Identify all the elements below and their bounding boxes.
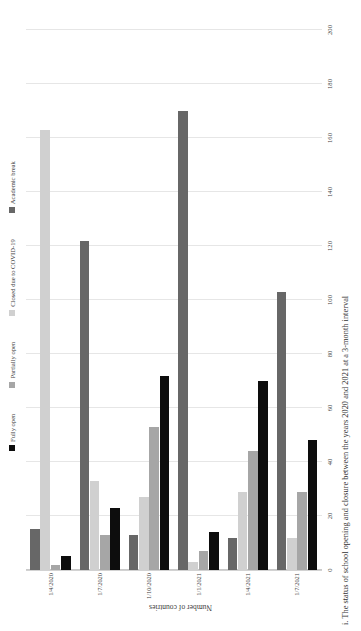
bar[interactable]: [199, 551, 209, 570]
value-axis-tick-label: 140: [326, 187, 333, 197]
legend-swatch-partially-open: [9, 382, 15, 388]
category-tick-label: 1/10/2020: [145, 573, 152, 599]
gridline: [26, 191, 322, 192]
legend-swatch-fully-open: [9, 445, 15, 451]
bar[interactable]: [287, 538, 297, 570]
bar[interactable]: [297, 492, 307, 570]
figure-caption: i. The status of school opening and clos…: [341, 5, 350, 625]
bar[interactable]: [178, 111, 188, 570]
legend-item[interactable]: Fully open: [9, 414, 16, 451]
legend-item-label: Partially open: [9, 342, 16, 379]
bar[interactable]: [110, 508, 120, 570]
legend-item[interactable]: Academic break: [9, 161, 16, 213]
gridline: [26, 245, 322, 246]
category-axis: 1/4/20201/7/20201/10/20201/1/20211/4/202…: [0, 571, 361, 631]
gridline: [26, 29, 322, 30]
value-axis-tick-label: 120: [326, 241, 333, 251]
bar[interactable]: [160, 376, 170, 570]
bar[interactable]: [277, 292, 287, 570]
bar[interactable]: [238, 492, 248, 570]
value-axis-tick-label: 100: [326, 295, 333, 305]
category-tick-label: 1/1/2021: [195, 573, 202, 596]
bar[interactable]: [90, 481, 100, 570]
bar[interactable]: [100, 535, 110, 570]
value-axis-tick-label: 60: [326, 405, 333, 412]
bar[interactable]: [308, 440, 318, 570]
legend-item[interactable]: Closed due to COVID-19: [9, 239, 16, 316]
bar[interactable]: [51, 565, 61, 570]
bar[interactable]: [129, 535, 139, 570]
legend-item-label: Fully open: [9, 414, 16, 442]
bar[interactable]: [30, 530, 40, 571]
value-axis-tick-label: 180: [326, 79, 333, 89]
legend-item-label: Closed due to COVID-19: [9, 239, 16, 307]
bar[interactable]: [139, 497, 149, 570]
value-axis-tick-label: 80: [326, 351, 333, 358]
bar[interactable]: [228, 538, 238, 570]
gridline: [26, 83, 322, 84]
chart-legend: Fully openPartially openClosed due to CO…: [4, 31, 20, 451]
plot-area: 020406080100120140160180200: [26, 30, 322, 571]
bar[interactable]: [248, 451, 258, 570]
legend-item[interactable]: Partially open: [9, 342, 16, 388]
bar[interactable]: [149, 427, 159, 570]
value-axis-tick-label: 20: [326, 513, 333, 520]
category-tick-label: 1/4/2021: [244, 573, 251, 596]
category-tick-label: 1/7/2021: [293, 573, 300, 596]
chart-figure: Fully openPartially openClosed due to CO…: [0, 0, 361, 631]
rotated-figure-wrapper: Fully openPartially openClosed due to CO…: [0, 0, 361, 631]
gridline: [26, 137, 322, 138]
category-tick-label: 1/4/2020: [47, 573, 54, 596]
value-axis-tick-label: 160: [326, 133, 333, 143]
value-axis-tick-label: 200: [326, 25, 333, 35]
legend-swatch-closed-covid: [9, 310, 15, 316]
bar[interactable]: [188, 562, 198, 570]
bar[interactable]: [40, 130, 50, 570]
bar[interactable]: [209, 532, 219, 570]
category-tick-label: 1/7/2020: [96, 573, 103, 596]
legend-item-label: Academic break: [9, 161, 16, 204]
value-axis-tick-label: 40: [326, 459, 333, 466]
legend-swatch-academic-break: [9, 207, 15, 213]
bar[interactable]: [80, 241, 90, 570]
bar[interactable]: [258, 381, 268, 570]
bar[interactable]: [61, 557, 71, 571]
